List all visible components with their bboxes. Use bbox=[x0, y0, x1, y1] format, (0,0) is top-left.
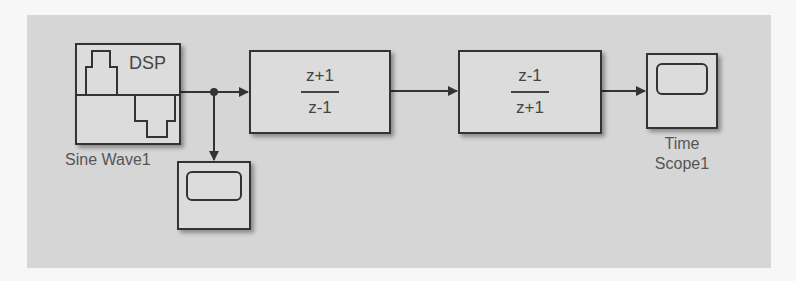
time-scope-1-label: Time Scope1 bbox=[640, 134, 724, 174]
tf1-numerator: z+1 bbox=[251, 66, 389, 86]
time-scope-branch-block[interactable] bbox=[177, 161, 251, 230]
scope-screen-icon bbox=[186, 171, 242, 201]
tf2-denominator: z+1 bbox=[460, 98, 600, 118]
transfer-function-2[interactable]: z-1 z+1 bbox=[458, 50, 602, 134]
time-scope-1-block[interactable] bbox=[646, 53, 718, 129]
sine-wave-dsp-text: DSP bbox=[129, 53, 166, 74]
time-scope-1-label-line2: Scope1 bbox=[640, 154, 724, 174]
scope-screen-icon bbox=[656, 63, 708, 95]
time-scope-1-label-line1: Time bbox=[640, 134, 724, 154]
tf1-denominator: z-1 bbox=[251, 98, 389, 118]
tf2-numerator: z-1 bbox=[460, 66, 600, 86]
tf1-fraction-bar bbox=[301, 91, 339, 93]
sine-wave-block[interactable]: DSP bbox=[75, 43, 181, 145]
tf2-fraction-bar bbox=[511, 91, 549, 93]
transfer-function-1[interactable]: z+1 z-1 bbox=[249, 50, 391, 134]
sine-wave-label: Sine Wave1 bbox=[65, 150, 151, 170]
